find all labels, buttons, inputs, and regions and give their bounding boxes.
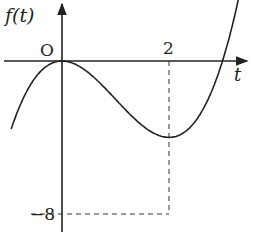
x-tick-2: 2 xyxy=(163,38,174,58)
y-tick-neg8: −8 xyxy=(30,204,55,224)
function-graph: f(t) O 2 t −8 xyxy=(0,0,253,238)
y-axis-label: f(t) xyxy=(3,4,35,26)
origin-label: O xyxy=(40,40,54,60)
x-axis-label: t xyxy=(234,64,242,85)
curve xyxy=(11,0,239,137)
